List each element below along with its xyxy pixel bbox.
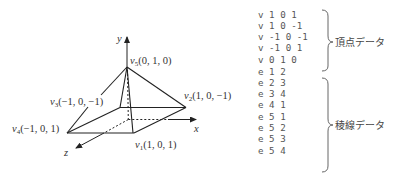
- code-line: e 3 4: [258, 88, 286, 99]
- code-line: e 5 2: [258, 122, 286, 133]
- edge-data-label: 稜線データ: [335, 119, 385, 131]
- vertex-label-v5: v5(0, 1, 0): [130, 55, 172, 68]
- vertex-label-v3: v3(−1, 0, −1): [50, 96, 104, 109]
- brace-edge-data: [322, 78, 333, 172]
- x-axis-label: x: [193, 123, 199, 134]
- svg-text:v3(−1, 0, −1): v3(−1, 0, −1): [50, 96, 104, 109]
- brace-vertex-data: [322, 10, 333, 71]
- code-line: e 5 3: [258, 133, 286, 144]
- code-line: e 1 2: [258, 66, 286, 77]
- vertex-label-v2: v2(1, 0, −1): [184, 90, 232, 103]
- vertex-label-v4: v4(−1, 0, 1): [12, 123, 60, 136]
- code-line: e 2 3: [258, 77, 286, 88]
- code-line: e 5 4: [258, 145, 286, 156]
- code-line: v 1 0 -1: [258, 20, 302, 31]
- z-axis: [76, 133, 104, 148]
- code-line: e 4 1: [258, 99, 286, 110]
- edge-data-lines: e 1 2 e 2 3 e 3 4 e 4 1 e 5 1 e 5 2 e 5 …: [258, 66, 286, 156]
- edge-v1-v2: [134, 108, 186, 134]
- pyramid-diagram: y x z v5(0, 1, 0) v3(−1, 0, −1) v2(1, 0,…: [0, 0, 397, 189]
- code-line: v 0 1 0: [258, 54, 297, 65]
- vertex-data-label: 頂点データ: [335, 36, 385, 48]
- edge-v5-v4-lower: [67, 107, 88, 133]
- svg-text:v1(1, 0, 1): v1(1, 0, 1): [135, 139, 177, 152]
- code-line: v -1 0 1: [258, 42, 302, 53]
- edge-v3-v4: [67, 108, 120, 134]
- code-line: e 5 1: [258, 111, 286, 122]
- edge-v5-v1: [127, 67, 133, 133]
- edge-v5-v2: [127, 67, 186, 108]
- svg-text:v5(0, 1, 0): v5(0, 1, 0): [130, 55, 172, 68]
- svg-text:v4(−1, 0, 1): v4(−1, 0, 1): [12, 123, 60, 136]
- code-line: v 1 0 1: [258, 9, 297, 20]
- svg-text:v2(1, 0, −1): v2(1, 0, −1): [184, 90, 232, 103]
- axes: [76, 37, 196, 148]
- code-line: v -1 0 -1: [258, 31, 308, 42]
- vertex-label-v1: v1(1, 0, 1): [135, 139, 177, 152]
- vertex-data-lines: v 1 0 1 v 1 0 -1 v -1 0 -1 v -1 0 1 v 0 …: [258, 9, 308, 65]
- z-axis-label: z: [63, 147, 68, 158]
- z-axis-hidden: [104, 120, 128, 134]
- y-axis-label: y: [116, 33, 122, 44]
